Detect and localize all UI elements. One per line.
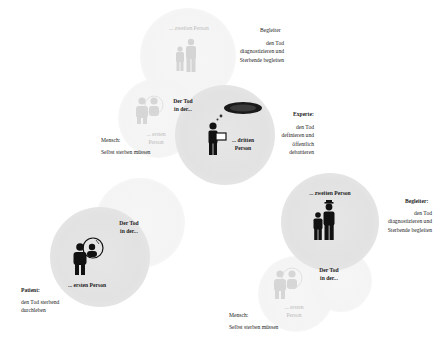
circle-label-zweiten: ... zweiten Person	[298, 189, 362, 197]
role-title-begleiter-top: Begleiter	[260, 26, 281, 34]
parent-child-icon-faint-top	[174, 38, 200, 74]
faint-label-ersten-mid: ... ersten Person	[136, 130, 176, 147]
role-line: Sterbende begleiten	[380, 226, 432, 234]
role-line: den Tod	[272, 123, 314, 131]
header-line: Der Tod	[311, 266, 347, 274]
role-desc-patient: den Tod sterbend durchleben	[21, 298, 59, 315]
side-title-mensch-mid: Mensch:	[101, 136, 120, 144]
header-line: in der...	[311, 274, 347, 282]
circle-label-dritten: ... dritten Person	[225, 136, 261, 153]
role-line: diagnostizieren und	[224, 47, 284, 55]
header-line: in der...	[111, 227, 147, 235]
side-line-mensch-mid: Selbst sterben müssen	[101, 148, 150, 156]
circle-label-ersten: ... ersten Person	[68, 281, 106, 289]
role-desc-begleiter-top: den Tod diagnostizieren und Sterbende be…	[224, 39, 284, 64]
role-desc-begleiter: den Tod diagnostizieren und Sterbende be…	[380, 209, 432, 234]
role-line: diagnostizieren und	[380, 217, 432, 225]
header-der-tod-second: Der Tod in der...	[311, 266, 347, 283]
side-title-mensch-bottom: Mensch:	[229, 311, 248, 319]
header-line: Der Tod	[111, 219, 147, 227]
two-persons-icon-faint-mid	[134, 96, 164, 124]
role-title-begleiter: Begleiter:	[405, 197, 428, 205]
two-persons-icon-faint-bottom	[272, 268, 302, 300]
header-line: in der...	[165, 105, 201, 113]
role-title-experte: Experte:	[293, 110, 314, 118]
role-line: öffentlich	[272, 140, 314, 148]
role-line: den Tod sterbend	[21, 298, 59, 306]
faint-label-line: ... ersten	[276, 303, 312, 311]
parent-child-icon	[312, 202, 338, 242]
role-line: den Tod	[224, 39, 284, 47]
side-line-mensch-bottom: Selbst sterben müssen	[229, 323, 278, 331]
circle-label-line: ... dritten	[225, 136, 261, 144]
header-der-tod-third: Der Tod in der...	[165, 97, 201, 114]
role-desc-experte: den Tod definieren und öffentlich debatt…	[272, 123, 314, 157]
faint-label-line: ... ersten	[136, 130, 176, 138]
role-line: debattieren	[272, 148, 314, 156]
role-line: durchleben	[21, 306, 59, 314]
person-mirror-icon	[71, 236, 105, 276]
circle-label-line: Person	[225, 144, 261, 152]
header-der-tod-first: Der Tod in der...	[111, 219, 147, 236]
thought-cloud-icon	[223, 101, 263, 115]
role-line: definieren und	[272, 131, 314, 139]
header-line: Der Tod	[165, 97, 201, 105]
faint-label-line: Person	[276, 311, 312, 319]
faint-label-top: ... zweiten Person	[160, 24, 218, 32]
faint-label-ersten-bottom: ... ersten Person	[276, 303, 312, 320]
faint-label-line: Person	[136, 138, 176, 146]
role-title-patient: Patient:	[21, 286, 40, 294]
role-line: den Tod	[380, 209, 432, 217]
role-line: Sterbende begleiten	[224, 56, 284, 64]
